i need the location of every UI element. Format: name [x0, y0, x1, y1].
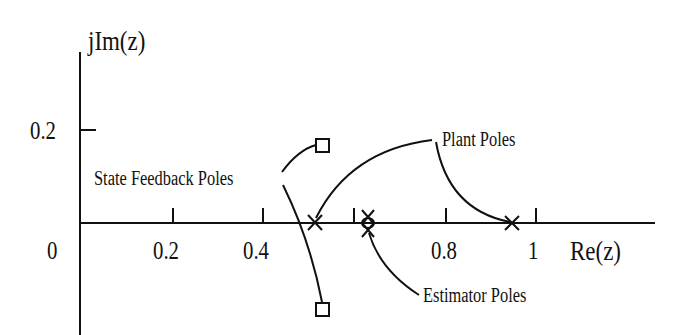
x-tick-label-1: 1 — [528, 236, 538, 266]
x-tick-label-0: 0 — [47, 236, 57, 266]
x-axis-label: Re(z) — [570, 236, 621, 267]
state-feedback-pole-marker — [316, 139, 329, 152]
annotation-plant-poles: Plant Poles — [442, 128, 515, 151]
leader-state-feedback-upper — [282, 145, 316, 172]
leader-state-feedback-lower — [283, 185, 322, 302]
leader-plant-left — [316, 140, 432, 218]
leader-plant-right — [436, 142, 510, 222]
x-tick-label-0.2: 0.2 — [153, 236, 179, 266]
y-tick-label-0.2: 0.2 — [30, 116, 56, 146]
x-tick-label-0.4: 0.4 — [243, 236, 269, 266]
annotation-state-feedback-poles: State Feedback Poles — [94, 167, 233, 190]
annotation-estimator-poles: Estimator Poles — [423, 284, 526, 307]
state-feedback-pole-marker — [316, 303, 329, 316]
leader-estimator — [369, 233, 419, 295]
x-tick-label-0.8: 0.8 — [431, 236, 457, 266]
y-axis-label: jIm(z) — [88, 26, 145, 57]
